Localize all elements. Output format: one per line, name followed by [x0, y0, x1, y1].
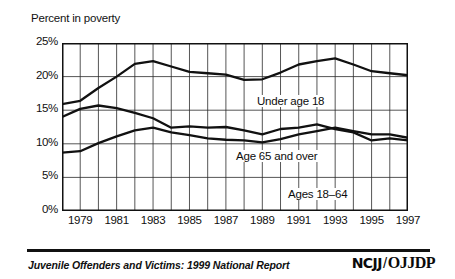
- series-line-1: [62, 58, 408, 104]
- y-axis-tick-labels: 0%5%10%15%20%25%: [5, 43, 58, 211]
- plot-area: Under age 18 Age 65 and over Ages 18–64: [62, 43, 408, 211]
- y-tick-label: 5%: [8, 169, 58, 181]
- y-tick-label: 0%: [8, 203, 58, 215]
- y-tick-label: 10%: [8, 136, 58, 148]
- series-label-ages-18-64: Ages 18–64: [286, 188, 349, 200]
- logo-ojjdp-text: OJJDP: [388, 254, 435, 271]
- y-tick-label: 20%: [8, 69, 58, 81]
- y-tick-label: 15%: [8, 102, 58, 114]
- x-tick-label: 1987: [214, 214, 238, 226]
- plot-frame: [63, 44, 408, 211]
- ncjj-ojjdp-logo: NCJJ/OJJDP: [352, 254, 435, 272]
- x-tick-label: 1989: [250, 214, 274, 226]
- x-tick-label: 1979: [68, 214, 92, 226]
- series-label-age-65-and-over: Age 65 and over: [234, 150, 319, 162]
- x-tick-label: 1983: [141, 214, 165, 226]
- grid-lines: [62, 43, 408, 211]
- series-label-under-age-18: Under age 18: [255, 95, 326, 107]
- logo-ncjj-text: NCJJ: [352, 255, 382, 271]
- footer-divider: [27, 249, 430, 252]
- x-tick-label: 1985: [177, 214, 201, 226]
- x-tick-label: 1995: [359, 214, 383, 226]
- y-tick-label: 25%: [8, 35, 58, 47]
- chart-axis-title: Percent in poverty: [31, 12, 120, 24]
- x-tick-label: 1993: [323, 214, 347, 226]
- poverty-rate-line-chart: Percent in poverty 0%5%10%15%20%25% Unde…: [0, 0, 455, 279]
- series-line-2: [62, 106, 408, 141]
- series-line-3: [62, 128, 408, 153]
- series-lines: [62, 58, 408, 152]
- x-tick-label: 1991: [287, 214, 311, 226]
- x-tick-label: 1981: [104, 214, 128, 226]
- x-axis-tick-labels: 1979198119831985198719891991199319951997: [62, 214, 408, 234]
- footer-caption: Juvenile Offenders and Victims: 1999 Nat…: [28, 259, 289, 271]
- plot-svg: [62, 43, 408, 211]
- x-tick-label: 1997: [396, 214, 420, 226]
- plot-border: [63, 44, 408, 211]
